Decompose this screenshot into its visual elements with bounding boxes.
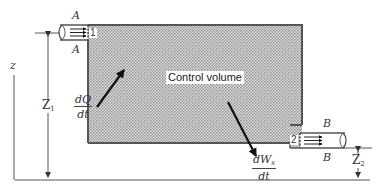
shaft-work-subscript: s [271, 159, 275, 167]
outlet-port-number: 2 [290, 135, 298, 145]
diagram-canvas [0, 0, 383, 193]
inlet-port-number: 1 [89, 28, 97, 38]
shaft-work-denominator: dt [252, 169, 276, 182]
heat-transfer-label: dQ dt [74, 94, 92, 120]
control-volume-label: Control volume [166, 71, 244, 84]
inlet-section-label-top: A [72, 10, 80, 21]
outlet-flow-arrows [304, 137, 322, 144]
z-axis-label: z [10, 60, 16, 71]
outlet-section-label-top: B [323, 118, 331, 129]
heat-transfer-numerator: dQ [74, 94, 92, 107]
shaft-work-numerator: dW [253, 153, 271, 166]
z1-label-sub: 1 [50, 105, 54, 113]
heat-transfer-denominator: dt [74, 107, 92, 120]
inlet-section-label-bottom: A [72, 44, 80, 55]
z2-label-sub: 2 [360, 160, 364, 168]
z1-label: Z1 [42, 99, 55, 113]
z2-label: Z2 [352, 154, 365, 168]
outlet-pipe [300, 133, 346, 148]
shaft-work-label: dWs dt [252, 154, 276, 182]
outlet-section-label-bottom: B [323, 152, 331, 163]
